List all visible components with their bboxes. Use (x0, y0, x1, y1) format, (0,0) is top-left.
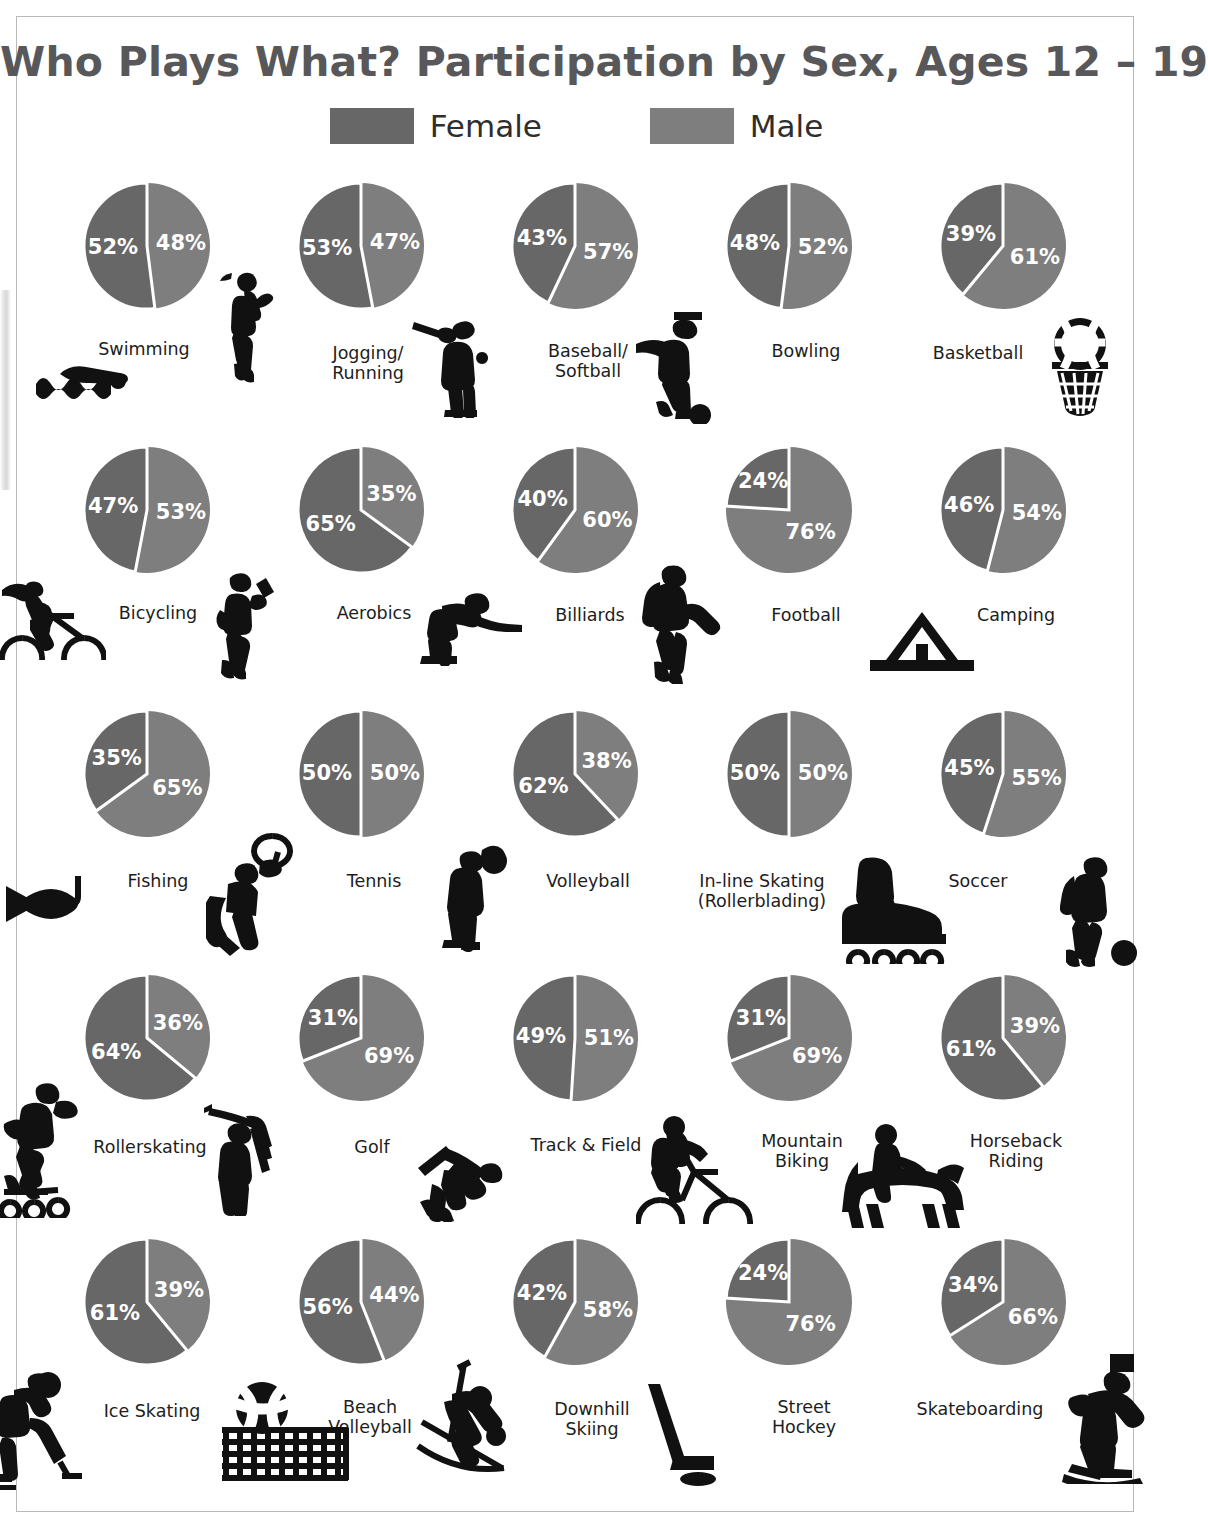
pie-label-male: 50% (798, 761, 848, 785)
pie-label-female: 24% (738, 469, 788, 493)
sport-label: Tennis (284, 872, 464, 892)
mountain-biker-icon (636, 1112, 756, 1224)
swimmer-icon (30, 354, 150, 400)
pie-cell-volleyball: 62%38%Volleyball (468, 704, 682, 968)
legend-swatch-female-icon (330, 108, 414, 144)
sport-label: Ice Skating (62, 1402, 242, 1422)
pie-label-male: 48% (156, 231, 206, 255)
pie-cell-basketball: 39%61%Basketball (896, 176, 1110, 440)
page-title: Who Plays What? Participation by Sex, Ag… (0, 38, 1153, 86)
pie-chart: 39%61% (933, 176, 1073, 316)
pie-chart: 47%53% (77, 440, 217, 580)
pie-label-male: 60% (582, 508, 632, 532)
batter-icon (412, 306, 504, 418)
pie-label-female: 45% (944, 756, 994, 780)
pie-label-male: 47% (370, 230, 420, 254)
soccer-player-icon (1056, 852, 1142, 968)
pie-label-female: 49% (516, 1024, 566, 1048)
pie-label-female: 35% (92, 746, 142, 770)
golfer-icon (202, 1080, 310, 1216)
pie-chart: 64%36% (77, 968, 217, 1108)
sport-label-line: Basketball (888, 344, 1068, 364)
ice-skater-icon (0, 1362, 88, 1490)
beach-volleyball-net-icon (216, 1378, 350, 1482)
pie-cell-camping: 46%54%Camping (896, 440, 1110, 704)
pie-label-male: 55% (1011, 766, 1061, 790)
pie-chart: 62%38% (505, 704, 645, 844)
pie-label-female: 39% (946, 222, 996, 246)
pie-cell-tennis: 50%50%Tennis (254, 704, 468, 968)
pie-label-male: 54% (1012, 501, 1062, 525)
pie-label-female: 31% (308, 1006, 358, 1030)
sport-label-line: Skateboarding (890, 1400, 1070, 1420)
pie-chart: 43%57% (505, 176, 645, 316)
pie-label-male: 61% (1010, 245, 1060, 269)
volleyball-player-icon (438, 834, 520, 954)
pie-label-male: 58% (583, 1298, 633, 1322)
billiards-player-icon (418, 588, 526, 666)
skier-icon (416, 1358, 532, 1474)
pie-label-female: 43% (517, 226, 567, 250)
pie-label-female: 65% (306, 512, 356, 536)
pie-label-female: 50% (730, 761, 780, 785)
pie-cell-in-line-skating-rollerblading: 50%50%In-line Skating(Rollerblading) (682, 704, 896, 968)
pie-label-female: 53% (302, 236, 352, 260)
bicyclist-icon (0, 576, 106, 660)
pie-label-female: 24% (738, 1261, 788, 1285)
runner-icon (212, 268, 278, 384)
pie-label-female: 61% (90, 1301, 140, 1325)
pie-label-female: 31% (736, 1006, 786, 1030)
pie-cell-skateboarding: 34%66%Skateboarding (896, 1232, 1110, 1496)
pie-chart: 40%60% (505, 440, 645, 580)
pie-label-male: 76% (785, 1312, 835, 1336)
sport-label-line: (Rollerblading) (672, 892, 852, 912)
sport-label-line: Street (714, 1398, 894, 1418)
basketball-hoop-icon (1046, 316, 1114, 420)
pie-label-female: 47% (88, 494, 138, 518)
pie-cell-soccer: 45%55%Soccer (896, 704, 1110, 968)
pie-chart: 24%76% (719, 440, 859, 580)
legend-swatch-male-icon (650, 108, 734, 144)
pie-label-male: 69% (364, 1044, 414, 1068)
pie-cell-street-hockey: 24%76%StreetHockey (682, 1232, 896, 1496)
legend: Female Male (0, 108, 1153, 144)
sport-label-line: In-line Skating (672, 872, 852, 892)
pie-chart: 50%50% (719, 704, 859, 844)
pie-label-female: 48% (730, 231, 780, 255)
pie-chart: 24%76% (719, 1232, 859, 1372)
pie-label-male: 76% (785, 520, 835, 544)
pie-chart: 48%52% (719, 176, 859, 316)
pie-label-male: 69% (792, 1044, 842, 1068)
pie-chart: 45%55% (933, 704, 1073, 844)
legend-label-female: Female (430, 108, 542, 144)
pie-label-female: 61% (946, 1037, 996, 1061)
bowler-icon (634, 308, 730, 424)
sport-label: Basketball (888, 344, 1068, 364)
pie-label-male: 35% (366, 482, 416, 506)
pie-cell-horseback-riding: 61%39%HorsebackRiding (896, 968, 1110, 1232)
pie-label-male: 52% (798, 235, 848, 259)
pie-label-male: 39% (1010, 1014, 1060, 1038)
sport-label: StreetHockey (714, 1398, 894, 1437)
pie-chart: 31%69% (719, 968, 859, 1108)
hurdler-icon (416, 1140, 516, 1222)
pie-label-male: 65% (152, 776, 202, 800)
pie-cell-bowling: 48%52%Bowling (682, 176, 896, 440)
pie-label-male: 36% (153, 1011, 203, 1035)
pie-chart: 56%44% (291, 1232, 431, 1372)
pie-chart: 52%48% (77, 176, 217, 316)
sport-label-line: Bowling (716, 342, 896, 362)
pie-label-male: 66% (1008, 1305, 1058, 1329)
legend-item-male: Male (650, 108, 823, 144)
sport-label: Bowling (716, 342, 896, 362)
pie-label-male: 50% (370, 761, 420, 785)
pie-label-male: 51% (584, 1026, 634, 1050)
pie-label-male: 39% (154, 1278, 204, 1302)
pie-chart: 50%50% (291, 704, 431, 844)
pie-chart: 61%39% (77, 1232, 217, 1372)
pie-label-male: 38% (581, 749, 631, 773)
pie-label-male: 53% (156, 500, 206, 524)
tennis-player-icon (206, 828, 302, 956)
pie-cell-football: 24%76%Football (682, 440, 896, 704)
hockey-stick-puck-icon (638, 1382, 734, 1486)
